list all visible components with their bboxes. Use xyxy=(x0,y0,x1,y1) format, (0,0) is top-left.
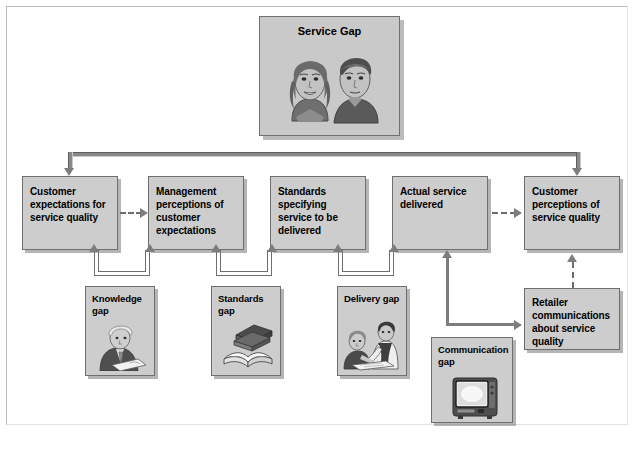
arrowhead-to-retailer-communications xyxy=(514,320,522,330)
process-box-customer-perceptions[interactable]: Customer perceptions of service quality xyxy=(524,176,620,250)
two-faces-portrait-icon xyxy=(272,43,390,131)
gap-box-knowledge[interactable]: Knowledge gap xyxy=(85,286,155,376)
stacked-open-books-icon xyxy=(220,319,276,371)
dashed-link-actual-to-perceptions xyxy=(492,212,516,214)
seated-man-reading-icon xyxy=(92,321,150,371)
process-box-label: Customer perceptions of service quality xyxy=(532,185,615,224)
arrowhead-up-standards-specifying xyxy=(267,244,277,252)
u-connector-delivery-gap xyxy=(338,250,394,276)
television-set-icon xyxy=(451,376,499,420)
gap-box-label: Knowledge gap xyxy=(92,293,150,317)
process-box-actual-service[interactable]: Actual service delivered xyxy=(392,176,488,250)
process-box-retailer-communications[interactable]: Retailer communications about service qu… xyxy=(524,288,620,350)
gap-box-label: Communication gap xyxy=(438,344,508,368)
gap-box-delivery[interactable]: Delivery gap xyxy=(337,286,407,376)
arrowhead-to-customer-expectations xyxy=(64,168,74,176)
arrowhead-dashed-up-to-customer-perceptions xyxy=(567,254,577,262)
u-connector-standards-gap xyxy=(216,250,272,276)
process-box-label: Management perceptions of customer expec… xyxy=(156,185,239,237)
gap-box-standards[interactable]: Standards gap xyxy=(211,286,281,376)
process-box-label: Actual service delivered xyxy=(400,185,483,211)
process-box-customer-expectations[interactable]: Customer expectations for service qualit… xyxy=(22,176,118,250)
arrowhead-dashed-to-customer-perceptions xyxy=(514,208,522,218)
elbow-vertical-actual-service xyxy=(446,258,449,326)
process-box-standards-specifying[interactable]: Standards specifying service to be deliv… xyxy=(270,176,366,250)
dashed-link-expectations-to-perceptions xyxy=(120,212,142,214)
arrowhead-dashed-to-management-perceptions xyxy=(140,208,148,218)
dashed-link-retailer-to-perceptions xyxy=(572,262,574,288)
process-box-label: Standards specifying service to be deliv… xyxy=(278,185,361,237)
arrowhead-up-actual-service-from-retailer xyxy=(442,250,452,258)
two-people-at-desk-icon xyxy=(342,319,404,371)
arrowhead-up-standards-specifying-2 xyxy=(333,244,343,252)
arrowhead-up-management-perceptions-2 xyxy=(211,244,221,252)
u-connector-knowledge-gap xyxy=(94,250,150,276)
service-gap-card: Service Gap xyxy=(259,16,400,136)
diagram-canvas: Service Gap xyxy=(0,0,636,465)
arrowhead-up-customer-expectations xyxy=(89,244,99,252)
arrowhead-up-actual-service xyxy=(389,244,399,252)
top-bus-line xyxy=(70,152,580,157)
process-box-label: Retailer communications about service qu… xyxy=(532,296,615,348)
arrowhead-to-customer-perceptions xyxy=(572,168,582,176)
gap-box-label: Delivery gap xyxy=(344,293,402,305)
arrowhead-up-management-perceptions xyxy=(145,244,155,252)
process-box-label: Customer expectations for service qualit… xyxy=(30,185,113,224)
gap-box-communication[interactable]: Communication gap xyxy=(431,337,513,423)
process-box-management-perceptions[interactable]: Management perceptions of customer expec… xyxy=(148,176,244,250)
gap-box-label: Standards gap xyxy=(218,293,276,317)
elbow-horizontal-to-retailer xyxy=(446,323,516,326)
service-gap-title: Service Gap xyxy=(260,25,399,37)
